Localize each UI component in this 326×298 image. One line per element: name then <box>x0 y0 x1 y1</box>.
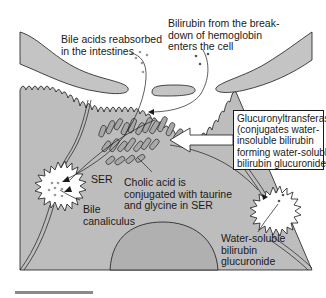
cholic-acid-label: Cholic acid is conjugated with taurine a… <box>124 177 232 212</box>
scale-bar <box>15 291 93 294</box>
bile-acids-label: Bile acids reabsorbed in the intestines <box>61 34 162 57</box>
enzyme-label: Glucuronyltransferase (conjugates water-… <box>237 113 320 169</box>
bilirubin-entry-label: Bilirubin from the break- down of hemogl… <box>168 18 279 53</box>
water-soluble-label: Water-soluble bilirubin glucuronide <box>221 233 285 268</box>
bilirubin-dots <box>195 53 210 66</box>
sinusoid-center <box>152 85 195 96</box>
bile-canaliculus-label: Bile canaliculus <box>83 204 135 227</box>
enzyme-callout-box: Glucuronyltransferase (conjugates water-… <box>233 110 324 170</box>
ser-label: SER <box>91 174 113 186</box>
